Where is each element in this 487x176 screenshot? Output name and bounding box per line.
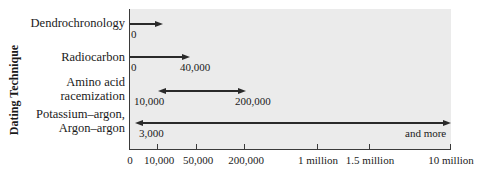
x-tick-200000 xyxy=(244,144,245,149)
x-tick-1million xyxy=(317,144,318,149)
x-tick-label-1million: 1 million xyxy=(298,154,338,166)
x-tick-label-10million: 10 million xyxy=(428,154,474,166)
arrow-dendrochronology xyxy=(130,21,163,27)
range-label-amino-end: 200,000 xyxy=(235,95,271,107)
x-tick-label-0: 0 xyxy=(127,154,133,166)
range-arrows xyxy=(0,0,487,176)
x-tick-50000 xyxy=(196,144,197,149)
x-tick-label-50000: 50,000 xyxy=(183,154,213,166)
x-tick-10million xyxy=(450,144,451,149)
range-label-radiocarbon-end: 40,000 xyxy=(180,61,210,73)
x-tick-10000 xyxy=(157,144,158,149)
range-label-kar-start: 3,000 xyxy=(139,127,164,139)
arrow-radiocarbon xyxy=(130,54,190,60)
range-label-amino-start: 10,000 xyxy=(134,95,164,107)
range-label-dendro-start: 0 xyxy=(131,28,137,40)
range-label-radiocarbon-start: 0 xyxy=(131,61,137,73)
x-tick-label-1-5million: 1.5 million xyxy=(346,154,394,166)
arrow-potassium-argon xyxy=(135,120,451,126)
x-tick-1-5million xyxy=(369,144,370,149)
arrow-amino-acid xyxy=(158,88,246,94)
range-label-kar-end: and more xyxy=(405,127,446,139)
x-tick-label-200000: 200,000 xyxy=(228,154,264,166)
x-tick-label-10000: 10,000 xyxy=(144,154,174,166)
